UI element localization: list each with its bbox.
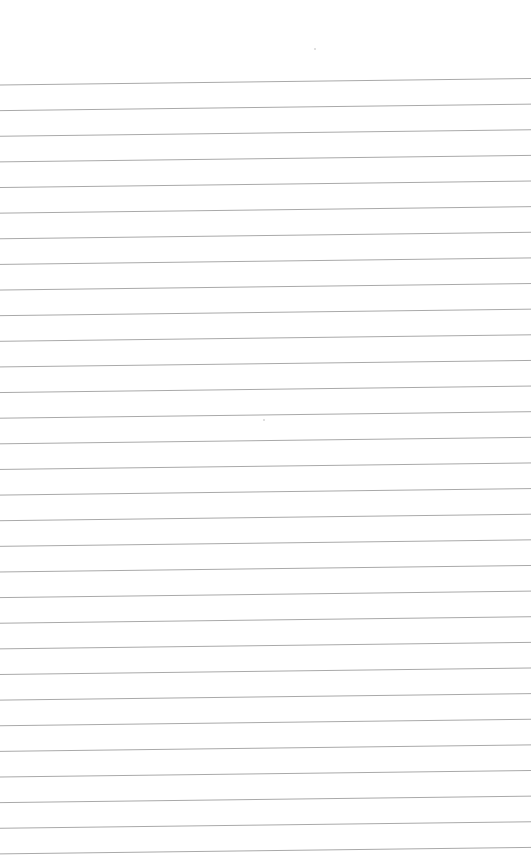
ruled-line xyxy=(0,668,531,675)
ruled-line xyxy=(0,642,531,649)
ruled-line xyxy=(0,771,531,778)
ruled-line xyxy=(0,181,531,188)
ruled-line xyxy=(0,360,531,367)
ruled-line xyxy=(0,796,531,803)
ruled-line xyxy=(0,258,531,265)
ruled-line xyxy=(0,719,531,726)
ruled-lines xyxy=(0,0,531,864)
ruled-line xyxy=(0,694,531,701)
paper-speck xyxy=(314,48,316,50)
ruled-line xyxy=(0,617,531,624)
lined-paper-sheet xyxy=(0,0,531,864)
ruled-line xyxy=(0,386,531,393)
ruled-line xyxy=(0,822,531,829)
ruled-line xyxy=(0,232,531,239)
ruled-line xyxy=(0,437,531,444)
ruled-line xyxy=(0,745,531,752)
ruled-line xyxy=(0,514,531,521)
ruled-line xyxy=(0,130,531,137)
ruled-line xyxy=(0,463,531,470)
ruled-line xyxy=(0,207,531,214)
ruled-line xyxy=(0,847,531,854)
ruled-line xyxy=(0,284,531,291)
ruled-line xyxy=(0,489,531,496)
paper-speck xyxy=(263,419,265,421)
ruled-line xyxy=(0,565,531,572)
ruled-line xyxy=(0,591,531,598)
ruled-line xyxy=(0,79,531,86)
ruled-line xyxy=(0,335,531,342)
ruled-line xyxy=(0,540,531,547)
ruled-line xyxy=(0,309,531,316)
ruled-line xyxy=(0,155,531,162)
ruled-line xyxy=(0,412,531,419)
ruled-line xyxy=(0,104,531,111)
